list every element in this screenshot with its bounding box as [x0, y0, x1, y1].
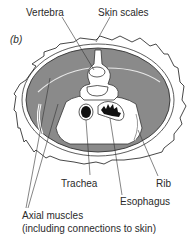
label-esophagus: Esophagus: [120, 196, 170, 207]
body-cavity: [56, 96, 142, 144]
panel-label: (b): [10, 34, 22, 45]
label-axial-muscles: Axial muscles: [22, 210, 83, 221]
label-trachea: Trachea: [61, 178, 97, 189]
cross-section-diagram: [0, 0, 187, 244]
neural-canal: [89, 67, 105, 77]
label-rib: Rib: [156, 178, 171, 189]
trachea-lumen: [81, 106, 91, 118]
label-vertebra: Vertebra: [26, 7, 64, 18]
vertebral-centrum: [87, 86, 108, 97]
label-skin-scales: Skin scales: [98, 7, 149, 18]
label-axial-muscles-note: (including connections to skin): [22, 223, 156, 234]
